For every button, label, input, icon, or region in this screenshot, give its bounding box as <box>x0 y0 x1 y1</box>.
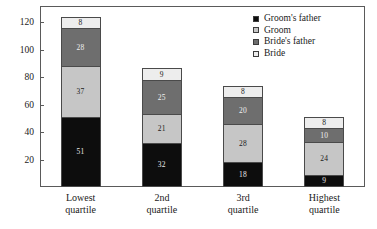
x-axis-label-3: Highestquartile <box>281 192 367 215</box>
y-axis-tick-label: 40 <box>0 127 34 137</box>
bar-segment-value: 28 <box>77 44 85 52</box>
bar-segment-brides-father[interactable]: 10 <box>304 128 344 142</box>
bar-segment-value: 37 <box>77 88 85 96</box>
stacked-bar-chart: 20406080100120 8283751925213282028188102… <box>0 0 377 229</box>
x-axis-label-0: Lowestquartile <box>38 192 124 215</box>
x-axis-label-line: Lowest <box>38 192 124 204</box>
x-axis-label-line: 3rd <box>200 192 286 204</box>
bar-segment-value: 10 <box>320 132 328 140</box>
legend-label: Groom <box>264 25 291 37</box>
bar-2[interactable]: 8202818 <box>223 86 263 187</box>
bar-segment-value: 28 <box>239 140 247 148</box>
y-axis-tick-label: 120 <box>0 17 34 27</box>
y-axis-tick-label: 80 <box>0 72 34 82</box>
legend-item-brides-father[interactable]: Bride's father <box>253 36 321 48</box>
bar-segment-value: 32 <box>158 161 166 169</box>
bar-segment-bride[interactable]: 8 <box>304 117 344 128</box>
bar-segment-value: 24 <box>320 155 328 163</box>
bar-segment-groom[interactable]: 21 <box>142 114 182 143</box>
legend-label: Bride <box>264 48 285 60</box>
bar-segment-value: 20 <box>239 107 247 115</box>
bar-1[interactable]: 9252132 <box>142 68 182 187</box>
bar-segment-value: 25 <box>158 94 166 102</box>
y-axis-tick-label: 100 <box>0 45 34 55</box>
y-axis-tick-label: 20 <box>0 155 34 165</box>
legend-swatch-bride <box>253 51 259 57</box>
bar-segment-value: 8 <box>241 88 245 96</box>
x-axis-label-line: quartile <box>119 204 205 216</box>
bar-segment-grooms-father[interactable]: 32 <box>142 143 182 187</box>
bar-segment-value: 9 <box>322 177 326 185</box>
bar-3[interactable]: 810249 <box>304 117 344 187</box>
x-axis-label-1: 2ndquartile <box>119 192 205 215</box>
x-axis-label-2: 3rdquartile <box>200 192 286 215</box>
legend-label: Bride's father <box>264 36 315 48</box>
x-axis-label-line: quartile <box>200 204 286 216</box>
bar-segment-brides-father[interactable]: 25 <box>142 80 182 114</box>
bar-segment-grooms-father[interactable]: 9 <box>304 175 344 187</box>
bar-segment-value: 8 <box>79 19 83 27</box>
legend-label: Groom's father <box>264 13 321 25</box>
bar-segment-value: 21 <box>158 125 166 133</box>
bar-segment-groom[interactable]: 24 <box>304 142 344 175</box>
bar-segment-grooms-father[interactable]: 51 <box>61 117 101 187</box>
bar-segment-groom[interactable]: 37 <box>61 66 101 117</box>
bar-segment-value: 51 <box>77 148 85 156</box>
bar-segment-value: 8 <box>322 119 326 127</box>
legend-swatch-brides-father <box>253 39 259 45</box>
legend: Groom's fatherGroomBride's fatherBride <box>253 13 321 59</box>
legend-item-bride[interactable]: Bride <box>253 48 321 60</box>
x-axis-label-line: quartile <box>281 204 367 216</box>
bar-0[interactable]: 8283751 <box>61 17 101 187</box>
bar-segment-bride[interactable]: 9 <box>142 68 182 80</box>
bar-segment-brides-father[interactable]: 20 <box>223 97 263 124</box>
legend-item-groom[interactable]: Groom <box>253 25 321 37</box>
legend-swatch-grooms-father <box>253 16 259 22</box>
bar-segment-grooms-father[interactable]: 18 <box>223 162 263 187</box>
bar-segment-bride[interactable]: 8 <box>61 17 101 28</box>
bar-segment-groom[interactable]: 28 <box>223 124 263 162</box>
bar-segment-value: 9 <box>160 71 164 79</box>
y-axis-tick-label: 60 <box>0 100 34 110</box>
bar-segment-brides-father[interactable]: 28 <box>61 28 101 66</box>
x-axis-label-line: quartile <box>38 204 124 216</box>
x-axis-label-line: 2nd <box>119 192 205 204</box>
legend-swatch-groom <box>253 27 259 33</box>
bar-segment-bride[interactable]: 8 <box>223 86 263 97</box>
legend-item-grooms-father[interactable]: Groom's father <box>253 13 321 25</box>
x-axis-label-line: Highest <box>281 192 367 204</box>
bar-segment-value: 18 <box>239 171 247 179</box>
